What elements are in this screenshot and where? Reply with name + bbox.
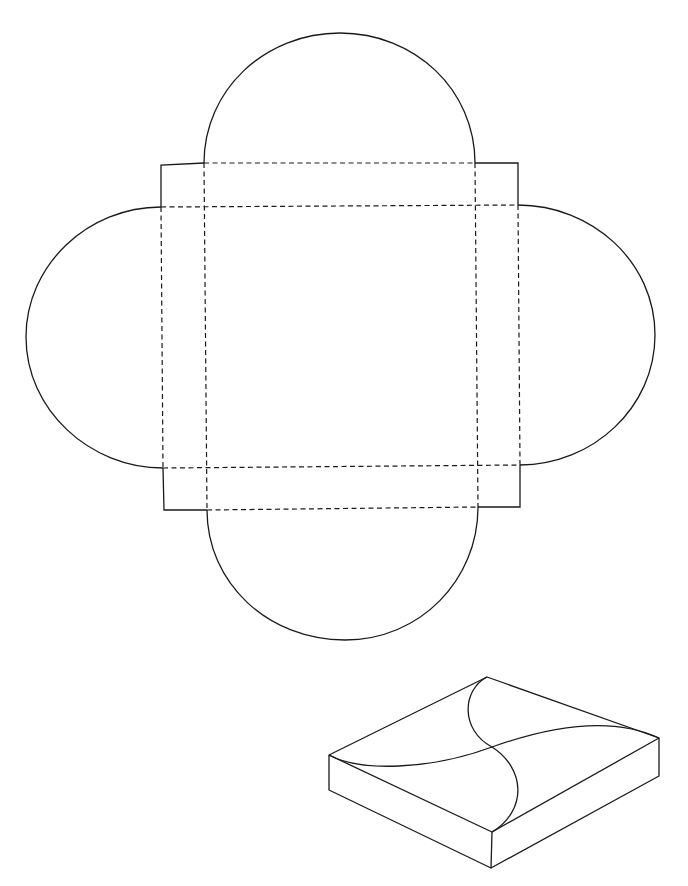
assembled-box bbox=[329, 677, 659, 868]
corner-tab-bottom-left bbox=[163, 468, 207, 510]
bottom-flap bbox=[207, 507, 478, 640]
corner-tab-top-right bbox=[475, 163, 518, 205]
fold-line-left-outer bbox=[161, 207, 163, 468]
fold-line-right-outer bbox=[518, 205, 520, 465]
lid-curve-horizontal bbox=[329, 726, 659, 767]
lid-curve-vertical bbox=[468, 677, 518, 832]
box-template-diagram bbox=[0, 0, 688, 886]
box-left-side bbox=[329, 755, 492, 868]
fold-line-bottom-inner bbox=[163, 465, 520, 468]
corner-tab-bottom-right bbox=[478, 465, 520, 507]
fold-line-bottom-outer bbox=[207, 507, 478, 510]
fold-line-right-inner bbox=[475, 163, 478, 507]
fold-line-top-inner bbox=[161, 205, 518, 207]
box-net bbox=[26, 33, 655, 640]
fold-line-left-inner bbox=[204, 163, 207, 510]
right-flap bbox=[518, 205, 655, 465]
box-top-face bbox=[329, 677, 659, 832]
left-flap bbox=[26, 207, 163, 468]
corner-tab-top-left bbox=[161, 163, 204, 207]
top-flap bbox=[204, 33, 475, 163]
